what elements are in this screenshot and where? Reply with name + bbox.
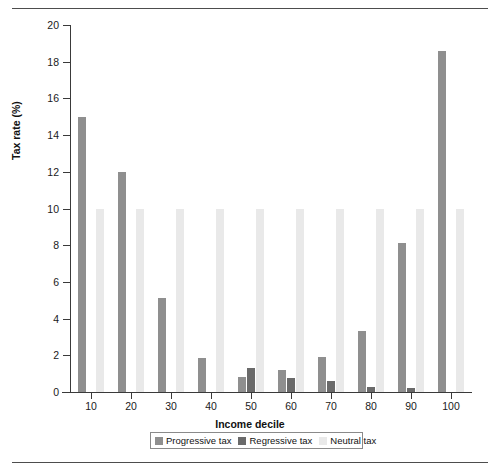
bar-progressive-40	[198, 358, 206, 392]
legend-entry: Neutral tax	[319, 436, 376, 446]
legend-swatch-icon	[238, 437, 246, 445]
bar-progressive-30	[158, 298, 166, 392]
y-tick	[63, 355, 70, 356]
x-tick	[371, 393, 372, 399]
y-tick	[63, 209, 70, 210]
y-tick	[63, 392, 70, 393]
x-tick	[91, 393, 92, 399]
x-axis-title: Income decile	[0, 418, 500, 430]
bar-progressive-100	[438, 51, 446, 392]
plot-area	[71, 25, 471, 392]
y-tick	[63, 62, 70, 63]
y-tick	[63, 319, 70, 320]
legend-label: Progressive tax	[166, 436, 231, 446]
bar-neutral-90	[416, 209, 424, 393]
y-tick-label: 2	[19, 350, 59, 361]
x-tick	[211, 393, 212, 399]
y-tick	[63, 135, 70, 136]
x-tick	[451, 393, 452, 399]
figure-top-rule	[12, 8, 488, 9]
x-tick	[291, 393, 292, 399]
legend-entry: Regressive tax	[238, 436, 312, 446]
bar-regressive-50	[247, 368, 255, 392]
y-tick-label: 12	[19, 167, 59, 178]
x-tick	[251, 393, 252, 399]
y-tick-label: 0	[19, 387, 59, 398]
bar-regressive-90	[407, 388, 415, 392]
chart-figure: 02468101214161820 102030405060708090100 …	[0, 0, 500, 475]
x-tick	[171, 393, 172, 399]
y-tick-label: 4	[19, 314, 59, 325]
bar-progressive-90	[398, 243, 406, 392]
bar-progressive-80	[358, 331, 366, 392]
bar-progressive-70	[318, 357, 326, 392]
bar-neutral-80	[376, 209, 384, 393]
legend-entry: Progressive tax	[155, 436, 231, 446]
bar-progressive-60	[278, 370, 286, 392]
bar-regressive-80	[367, 387, 375, 393]
figure-bottom-rule	[12, 462, 488, 463]
bar-regressive-60	[287, 378, 295, 392]
bar-neutral-10	[96, 209, 104, 393]
legend-swatch-icon	[155, 437, 163, 445]
bar-neutral-50	[256, 209, 264, 393]
y-tick-label: 18	[19, 57, 59, 68]
x-tick	[131, 393, 132, 399]
legend-label: Neutral tax	[330, 436, 376, 446]
y-axis-title: Tax rate (%)	[10, 101, 22, 160]
y-tick-label: 6	[19, 277, 59, 288]
bar-neutral-70	[336, 209, 344, 393]
legend-swatch-icon	[319, 437, 327, 445]
bar-neutral-40	[216, 209, 224, 393]
x-tick-label: 100	[426, 401, 476, 412]
bar-regressive-70	[327, 381, 335, 392]
bar-neutral-60	[296, 209, 304, 393]
y-tick-label: 8	[19, 240, 59, 251]
x-tick	[331, 393, 332, 399]
y-tick	[63, 98, 70, 99]
chart-legend: Progressive taxRegressive taxNeutral tax	[150, 432, 363, 449]
bar-neutral-100	[456, 209, 464, 393]
x-tick	[411, 393, 412, 399]
y-tick-label: 10	[19, 204, 59, 215]
y-tick-label: 14	[19, 130, 59, 141]
bar-progressive-10	[78, 117, 86, 392]
y-tick-label: 20	[19, 20, 59, 31]
y-tick	[63, 245, 70, 246]
y-tick	[63, 282, 70, 283]
bar-progressive-50	[238, 377, 246, 392]
bar-neutral-30	[176, 209, 184, 393]
bar-neutral-20	[136, 209, 144, 393]
y-tick	[63, 25, 70, 26]
legend-label: Regressive tax	[249, 436, 312, 446]
bar-progressive-20	[118, 172, 126, 392]
y-tick-label: 16	[19, 93, 59, 104]
y-tick	[63, 172, 70, 173]
